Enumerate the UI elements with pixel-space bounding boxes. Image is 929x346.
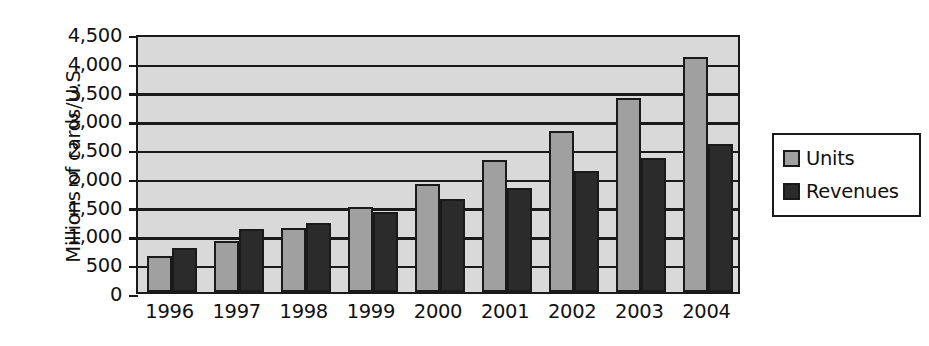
y-tick-mark	[129, 237, 138, 240]
bar-revenues-2001	[507, 188, 532, 292]
y-tick-mark	[129, 93, 138, 96]
bar-units-2003	[616, 98, 641, 292]
chart-legend: Units Revenues	[772, 133, 921, 217]
bar-revenues-2000	[440, 199, 465, 292]
y-tick-mark	[129, 122, 138, 125]
y-tick-label: 3,000	[22, 110, 122, 133]
y-tick-label: 4,500	[22, 24, 122, 47]
bar-group	[683, 37, 733, 292]
bar-revenues-1998	[306, 223, 331, 292]
y-tick-mark	[129, 180, 138, 183]
y-tick-mark	[129, 208, 138, 211]
y-tick-mark	[129, 65, 138, 68]
x-axis-tick-labels: 199619971998199920002001200220032004	[136, 300, 740, 330]
bar-revenues-2004	[708, 144, 733, 292]
bar-units-1998	[281, 228, 306, 292]
bar-units-1999	[348, 207, 373, 292]
y-tick-label: 1,500	[22, 196, 122, 219]
legend-label-revenues: Revenues	[806, 180, 899, 203]
bar-units-2001	[482, 160, 507, 292]
bar-group	[616, 37, 666, 292]
legend-swatch-units-icon	[783, 150, 800, 167]
y-tick-label: 1,000	[22, 225, 122, 248]
bars-layer	[138, 37, 738, 292]
legend-entry-units: Units	[783, 142, 919, 175]
bar-group	[147, 37, 197, 292]
y-tick-mark	[129, 151, 138, 154]
bar-revenues-2003	[641, 158, 666, 292]
legend-swatch-revenues-icon	[783, 183, 800, 200]
bar-revenues-2002	[574, 171, 599, 292]
bar-group	[281, 37, 331, 292]
y-tick-label: 500	[22, 254, 122, 277]
y-tick-label: 2,500	[22, 139, 122, 162]
plot-area	[136, 35, 740, 294]
x-tick-label: 2004	[666, 300, 746, 323]
y-tick-label: 2,000	[22, 167, 122, 190]
bar-group	[348, 37, 398, 292]
y-tick-mark	[129, 266, 138, 269]
y-tick-label: 0	[22, 283, 122, 306]
bar-group	[549, 37, 599, 292]
bar-revenues-1997	[239, 229, 264, 292]
y-tick-label: 4,000	[22, 52, 122, 75]
y-tick-mark	[129, 295, 138, 298]
bar-units-2004	[683, 57, 708, 292]
y-tick-mark	[129, 36, 138, 39]
bar-units-2002	[549, 131, 574, 292]
bar-units-1997	[214, 241, 239, 292]
legend-entry-revenues: Revenues	[783, 175, 919, 208]
bar-group	[482, 37, 532, 292]
bar-revenues-1996	[172, 248, 197, 292]
legend-label-units: Units	[806, 147, 854, 170]
bar-units-1996	[147, 256, 172, 292]
bar-units-2000	[415, 184, 440, 292]
bar-chart-figure: Millions of cards/U.S. 05001,0001,5002,0…	[0, 0, 929, 346]
y-tick-label: 3,500	[22, 81, 122, 104]
y-axis-tick-labels: 05001,0001,5002,0002,5003,0003,5004,0004…	[22, 35, 130, 294]
bar-revenues-1999	[373, 212, 398, 292]
bar-group	[214, 37, 264, 292]
bar-group	[415, 37, 465, 292]
